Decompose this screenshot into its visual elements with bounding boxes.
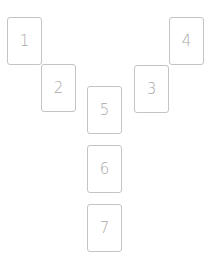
- card-number: 5: [100, 103, 110, 118]
- card-position-7[interactable]: 7: [87, 204, 122, 252]
- card-position-3[interactable]: 3: [134, 65, 169, 113]
- card-number: 6: [100, 162, 110, 177]
- card-position-1[interactable]: 1: [7, 17, 42, 65]
- card-position-6[interactable]: 6: [87, 145, 122, 193]
- card-number: 4: [182, 34, 192, 49]
- card-number: 3: [147, 82, 157, 97]
- card-number: 2: [54, 81, 64, 96]
- card-position-5[interactable]: 5: [87, 86, 122, 134]
- card-number: 1: [20, 34, 30, 49]
- card-position-2[interactable]: 2: [41, 64, 76, 112]
- card-position-4[interactable]: 4: [169, 17, 204, 65]
- card-number: 7: [100, 221, 110, 236]
